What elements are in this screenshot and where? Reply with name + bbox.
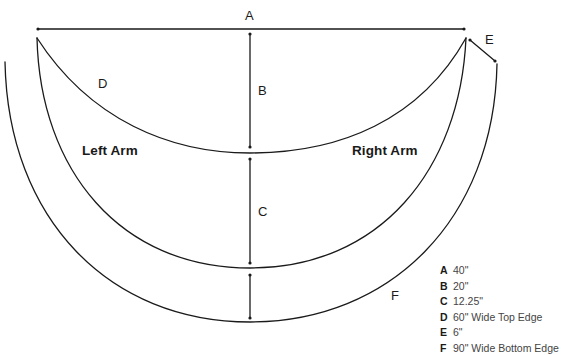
dimension-endpoints xyxy=(36,27,496,319)
label-d: D xyxy=(98,77,107,90)
label-b: B xyxy=(258,84,267,97)
legend-key: E xyxy=(440,325,453,341)
left-arm-label: Left Arm xyxy=(82,144,138,158)
label-e: E xyxy=(485,33,494,46)
bottom-edge-curve-f xyxy=(5,62,497,322)
legend-key: C xyxy=(440,294,453,310)
label-c: C xyxy=(258,205,267,218)
legend-value: 6" xyxy=(453,326,463,338)
legend-key: F xyxy=(440,341,453,355)
legend-item-e: E6" xyxy=(440,325,559,341)
label-f: F xyxy=(391,289,399,302)
top-edge-curve-d xyxy=(37,38,466,153)
legend-item-b: B20" xyxy=(440,279,559,295)
legend-item-f: F90" Wide Bottom Edge xyxy=(440,341,559,355)
legend-value: 12.25" xyxy=(453,295,483,307)
legend-item-c: C12.25" xyxy=(440,294,559,310)
legend-value: 60" Wide Top Edge xyxy=(453,311,542,323)
legend-item-d: D60" Wide Top Edge xyxy=(440,310,559,326)
legend-item-a: A40" xyxy=(440,263,559,279)
legend-key: D xyxy=(440,310,453,326)
legend-value: 20" xyxy=(453,280,468,292)
legend-value: 40" xyxy=(453,264,468,276)
measurement-legend: A40" B20" C12.25" D60" Wide Top Edge E6"… xyxy=(440,263,559,355)
legend-key: B xyxy=(440,279,453,295)
legend-key: A xyxy=(440,263,453,279)
label-a: A xyxy=(245,9,254,22)
right-arm-label: Right Arm xyxy=(352,144,418,158)
legend-value: 90" Wide Bottom Edge xyxy=(453,342,559,354)
